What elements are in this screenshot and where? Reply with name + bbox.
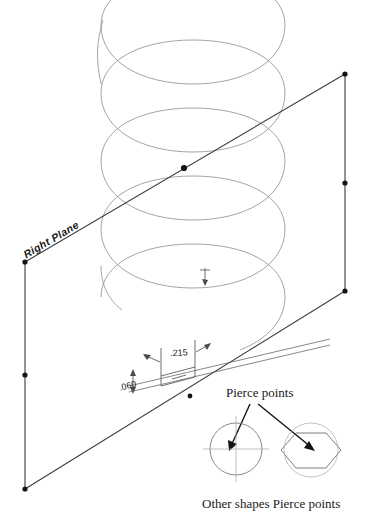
dim-060-arrow-top xyxy=(130,369,136,376)
arrow-to-circle-line xyxy=(231,404,250,446)
dim-215-arrow-left xyxy=(143,354,151,360)
helix-coil-4 xyxy=(101,229,285,288)
shape-hexagon xyxy=(281,433,341,468)
helix-coil-1-back xyxy=(101,0,285,25)
profile-anchor-point[interactable] xyxy=(188,394,193,399)
origin-marker-arrowhead xyxy=(202,279,208,286)
pierce-callout-arrows xyxy=(228,404,315,451)
helix-coil-1 xyxy=(101,25,285,84)
plane-edge-bottom-diagonal xyxy=(25,291,345,489)
helix-coil-3 xyxy=(101,161,285,220)
helix-coil-5-back xyxy=(101,244,285,297)
plane-vertex-handles[interactable] xyxy=(22,71,347,491)
origin-marker xyxy=(200,268,210,286)
dimension-width-label[interactable]: .215 xyxy=(170,347,188,358)
helix-coil-3-back xyxy=(101,108,285,161)
helix-left-strand xyxy=(97,20,103,84)
drawing-svg xyxy=(0,0,367,530)
pierce-points-title: Pierce points xyxy=(226,385,294,401)
technical-drawing-canvas: Right Plane .215 .060 Pierce points Othe… xyxy=(0,0,367,530)
vertex-mid-right[interactable] xyxy=(342,180,347,185)
vertex-mid-left[interactable] xyxy=(22,372,27,377)
vertex-bottom-right[interactable] xyxy=(342,288,347,293)
profile-leader-long-2 xyxy=(129,339,330,386)
helix-coil-5 xyxy=(101,266,122,310)
helix-coils xyxy=(97,0,285,350)
pierce-points-caption: Other shapes Pierce points xyxy=(202,496,340,512)
vertex-top-right[interactable] xyxy=(342,71,347,76)
arrow-to-hexagon-line xyxy=(258,404,311,447)
helix-coil-2 xyxy=(101,93,285,152)
helix-coil-4-back xyxy=(101,176,285,229)
helix-pierce-point[interactable] xyxy=(181,165,187,171)
shape-circle-group xyxy=(203,416,269,482)
hexagon-construction-circle xyxy=(284,423,338,477)
dim-215-arrow-right xyxy=(204,343,211,350)
helix-coil-2-back xyxy=(101,40,285,93)
shape-hexagon-group xyxy=(281,423,341,477)
vertex-bottom-left[interactable] xyxy=(22,486,27,491)
